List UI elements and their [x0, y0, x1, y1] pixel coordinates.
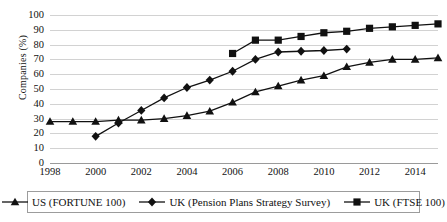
data-point: [275, 37, 282, 44]
data-point: [320, 29, 327, 36]
x-tick-label-2010: 2010: [304, 166, 344, 177]
series-line: [233, 24, 438, 54]
y-tick-label-60: 60: [18, 69, 44, 79]
data-point: [92, 132, 100, 141]
y-tick-label-10: 10: [18, 143, 44, 153]
legend-entry-1[interactable]: UK (Pension Plans Strategy Survey): [139, 196, 330, 208]
x-tick-label-2012: 2012: [350, 166, 390, 177]
data-point: [343, 45, 351, 54]
data-point: [228, 67, 236, 76]
series-layer: [50, 15, 438, 163]
y-tick-label-70: 70: [18, 54, 44, 64]
legend-label: UK (FTSE 100): [374, 196, 445, 208]
data-point: [297, 33, 304, 40]
data-point: [434, 20, 441, 27]
chart-legend: US (FORTUNE 100)UK (Pension Plans Strate…: [27, 191, 420, 213]
legend-entry-2[interactable]: UK (FTSE 100): [344, 196, 445, 208]
x-tick-label-2004: 2004: [167, 166, 207, 177]
legend-label: US (FORTUNE 100): [32, 196, 125, 208]
x-tick-label-2006: 2006: [213, 166, 253, 177]
data-point: [320, 46, 328, 55]
data-point: [228, 98, 237, 106]
x-tick-label-2008: 2008: [258, 166, 298, 177]
legend-marker-triangle-icon: [2, 196, 28, 208]
gridline-0: [50, 163, 438, 164]
data-point: [252, 37, 259, 44]
x-tick-label-2002: 2002: [121, 166, 161, 177]
x-tick-label-2014: 2014: [395, 166, 435, 177]
data-point: [389, 23, 396, 30]
series-2: [229, 20, 442, 57]
legend-marker-diamond-icon: [139, 196, 165, 208]
data-point: [160, 93, 168, 102]
data-point: [137, 106, 145, 115]
y-tick-label-50: 50: [18, 84, 44, 94]
y-tick-label-20: 20: [18, 128, 44, 138]
data-point: [412, 22, 419, 29]
series-line: [50, 58, 438, 122]
chart-container: Companies (%) 10090807060504030201001998…: [0, 0, 447, 222]
y-tick-label-100: 100: [18, 10, 44, 20]
data-point: [251, 55, 259, 64]
y-tick-label-90: 90: [18, 25, 44, 35]
series-1: [92, 45, 351, 141]
data-point: [274, 48, 282, 57]
y-tick-label-30: 30: [18, 114, 44, 124]
data-point: [183, 83, 191, 92]
data-point: [434, 54, 443, 62]
data-point: [206, 76, 214, 85]
y-tick-label-40: 40: [18, 99, 44, 109]
data-point: [297, 47, 305, 56]
legend-marker-square-icon: [344, 196, 370, 208]
x-tick-label-2000: 2000: [76, 166, 116, 177]
y-tick-label-80: 80: [18, 40, 44, 50]
data-point: [343, 28, 350, 35]
data-point: [229, 50, 236, 57]
legend-label: UK (Pension Plans Strategy Survey): [169, 196, 330, 208]
x-tick-label-1998: 1998: [30, 166, 70, 177]
plot-area: 1009080706050403020100199820002002200420…: [50, 15, 438, 163]
data-point: [366, 25, 373, 32]
legend-entry-0[interactable]: US (FORTUNE 100): [2, 196, 125, 208]
series-0: [46, 54, 443, 125]
series-line: [96, 49, 347, 136]
